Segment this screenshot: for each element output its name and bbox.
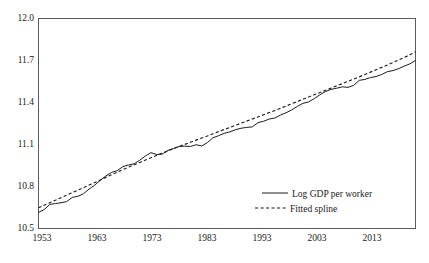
x-tick-label: 1983 (198, 233, 217, 243)
y-axis-tick-labels: 10.5 10.8 11.1 11.4 11.7 12.0 (17, 13, 34, 233)
line-chart: 10.5 10.8 11.1 11.4 11.7 12.0 1953 1963 … (0, 0, 429, 263)
y-tick-label: 11.7 (18, 55, 35, 65)
chart-legend: Log GDP per worker Fitted spline (255, 189, 373, 214)
y-tick-label: 11.4 (18, 97, 35, 107)
x-axis-tick-labels: 1953 1963 1973 1983 1993 2003 2013 (33, 233, 382, 243)
y-tick-label: 11.1 (18, 139, 35, 149)
legend-label-log-gdp-per-worker: Log GDP per worker (292, 189, 373, 199)
legend-label-fitted-spline: Fitted spline (290, 204, 337, 214)
x-tick-label: 1953 (33, 233, 52, 243)
x-tick-label: 1963 (88, 233, 107, 243)
x-tick-label: 1973 (143, 233, 162, 243)
y-tick-label: 12.0 (17, 13, 34, 23)
chart-container: 10.5 10.8 11.1 11.4 11.7 12.0 1953 1963 … (0, 0, 429, 263)
y-tick-label: 10.8 (17, 181, 34, 191)
x-tick-label: 2003 (308, 233, 327, 243)
y-tick-label: 10.5 (17, 223, 34, 233)
x-tick-label: 2013 (363, 233, 382, 243)
x-tick-label: 1993 (253, 233, 272, 243)
